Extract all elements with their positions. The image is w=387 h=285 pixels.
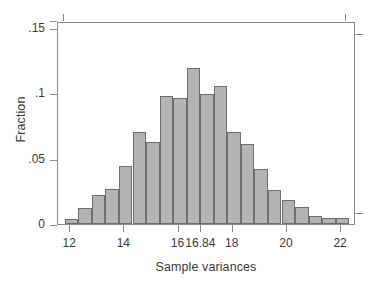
- y-axis-tick: [50, 29, 57, 30]
- histogram-bar: [160, 96, 174, 224]
- histogram-bar: [78, 208, 92, 224]
- frame-stub-tick: [355, 34, 363, 35]
- histogram-bar: [309, 216, 323, 225]
- x-axis-tick-label: 22: [310, 236, 370, 250]
- x-axis-tick: [232, 225, 233, 232]
- y-axis-tick: [50, 94, 57, 95]
- x-axis-tick: [69, 225, 70, 232]
- histogram-bar: [105, 189, 119, 224]
- y-axis-title: Fraction: [14, 7, 32, 232]
- histogram-bars: [58, 23, 354, 224]
- histogram-figure: Fraction 0.05.1.15 12141616.84182022 Sam…: [0, 0, 387, 285]
- x-axis-title: Sample variances: [57, 260, 355, 274]
- y-axis-tick-label: .1: [0, 86, 45, 100]
- x-axis-tick-label: 12: [39, 236, 99, 250]
- y-axis-tick: [50, 225, 57, 226]
- frame-stub-tick: [345, 14, 346, 21]
- histogram-bar: [119, 166, 133, 224]
- x-axis-tick-label: 20: [256, 236, 316, 250]
- x-axis-tick-label: 18: [202, 236, 262, 250]
- histogram-bar: [65, 219, 79, 224]
- histogram-bar: [92, 195, 106, 224]
- histogram-bar: [322, 218, 336, 224]
- frame-stub-tick: [50, 21, 57, 22]
- x-axis-tick: [123, 225, 124, 232]
- x-axis-tick: [200, 225, 201, 232]
- histogram-bar: [146, 142, 160, 225]
- x-axis-tick: [286, 225, 287, 232]
- histogram-bar: [295, 207, 309, 224]
- y-axis-tick-label: 0: [0, 217, 45, 231]
- histogram-bar: [336, 218, 350, 224]
- x-axis-tick: [340, 225, 341, 232]
- frame-stub-tick: [63, 14, 64, 21]
- y-axis-tick-label: .15: [0, 21, 45, 35]
- histogram-bar: [227, 132, 241, 224]
- histogram-bar: [173, 98, 187, 224]
- histogram-bar: [282, 200, 296, 224]
- plot-area: [57, 22, 355, 225]
- histogram-bar: [200, 94, 214, 224]
- histogram-bar: [133, 132, 147, 224]
- frame-stub-tick: [355, 213, 363, 214]
- histogram-bar: [214, 86, 228, 224]
- histogram-bar: [241, 144, 255, 224]
- y-axis-tick: [50, 160, 57, 161]
- x-axis-tick: [178, 225, 179, 232]
- histogram-bar: [187, 68, 201, 224]
- histogram-bar: [268, 190, 282, 224]
- y-axis-tick-label: .05: [0, 152, 45, 166]
- x-axis-tick-label: 14: [93, 236, 153, 250]
- histogram-bar: [254, 169, 268, 224]
